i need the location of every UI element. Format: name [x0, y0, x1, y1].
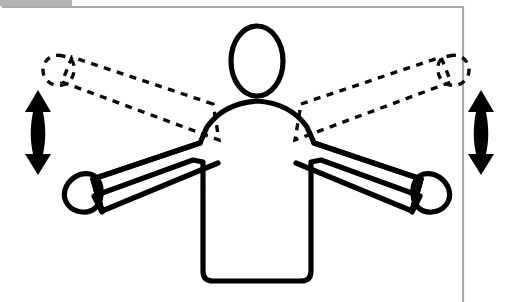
right-ghost-arm — [295, 57, 451, 140]
right-arm-sleeve — [296, 143, 421, 211]
right-motion-arrow — [468, 90, 494, 175]
left-motion-arrow — [25, 90, 51, 175]
torso-and-arms-outline — [93, 101, 421, 281]
frame-tab — [0, 0, 72, 6]
body-figure-group — [64, 26, 449, 281]
left-ghost-arm — [62, 57, 219, 140]
exercise-figure-svg — [0, 0, 513, 302]
illustration-canvas: Line drawing of a person seen from the f… — [0, 0, 513, 302]
left-arm-sleeve — [93, 143, 218, 211]
head — [231, 26, 283, 96]
